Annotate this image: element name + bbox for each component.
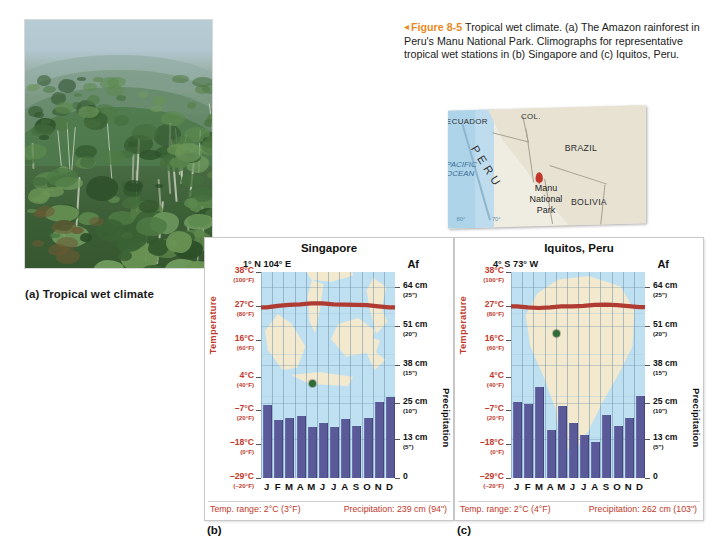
precip-tick bbox=[645, 287, 650, 288]
climograph-footer-singapore: Temp. range: 2°C (3°F) Precipitation: 23… bbox=[208, 501, 450, 516]
panel-letter-c: (c) bbox=[457, 524, 471, 536]
climate-code-iquitos: Af bbox=[657, 258, 669, 270]
month-label-A3: A bbox=[295, 481, 306, 492]
rainforest-photo bbox=[25, 20, 212, 268]
manu-national-park-pin bbox=[536, 172, 543, 182]
temp-tick-label: –7°C(20°F) bbox=[211, 404, 254, 422]
temperature-line bbox=[511, 272, 645, 478]
temp-tick bbox=[506, 478, 511, 479]
month-label-J5: J bbox=[567, 481, 578, 492]
month-label-J6: J bbox=[328, 481, 339, 492]
map-label-colombia: COL. bbox=[521, 112, 541, 121]
month-label-M4: M bbox=[306, 481, 317, 492]
caption-triangle-icon: ◂ bbox=[404, 21, 409, 32]
map-label-brazil: BRAZIL bbox=[565, 143, 597, 153]
month-label-O9: O bbox=[612, 481, 623, 492]
month-label-J0: J bbox=[511, 481, 522, 492]
temperature-line bbox=[261, 272, 395, 478]
climograph-title-iquitos: Iquitos, Peru bbox=[455, 242, 703, 254]
precip-tick-label: 0 bbox=[653, 472, 697, 481]
precip-tick-label: 64 cm(25") bbox=[403, 281, 447, 299]
temp-tick-label: –18°C(0°F) bbox=[461, 438, 504, 456]
rainforest-photo-panel bbox=[25, 20, 212, 268]
temp-range-iquitos: Temp. range: 2°C (4°F) bbox=[460, 504, 551, 514]
month-label-N10: N bbox=[373, 481, 384, 492]
precip-tick bbox=[645, 326, 650, 327]
temp-tick-label: –7°C(20°F) bbox=[461, 404, 504, 422]
map-inset: PACIFICOCEAN ECUADOR COL. BRAZIL BOLIVIA… bbox=[448, 105, 646, 229]
precip-tick bbox=[645, 403, 650, 404]
figure-8-5: (a) Tropical wet climate ◂Figure 8-5 Tro… bbox=[0, 0, 714, 552]
temp-tick-label: –29°C(–20°F) bbox=[461, 472, 504, 490]
month-label-D11: D bbox=[634, 481, 645, 492]
climograph-iquitos: Iquitos, Peru 4° S 73° W Af Temperature … bbox=[455, 238, 703, 520]
month-label-J5: J bbox=[317, 481, 328, 492]
month-label-A3: A bbox=[545, 481, 556, 492]
month-label-O9: O bbox=[362, 481, 373, 492]
map-label-ecuador: ECUADOR bbox=[448, 117, 488, 126]
month-label-A7: A bbox=[589, 481, 600, 492]
plot-area-iquitos bbox=[511, 272, 645, 478]
precipitation-axis-title-iquitos: Precipitation bbox=[691, 388, 702, 447]
climograph-footer-iquitos: Temp. range: 2°C (4°F) Precipitation: 26… bbox=[458, 501, 700, 516]
temp-tick bbox=[256, 478, 261, 479]
map-grid-label-70: 70° bbox=[492, 216, 501, 222]
month-label-S8: S bbox=[350, 481, 361, 492]
temp-range-singapore: Temp. range: 2°C (3°F) bbox=[210, 504, 301, 514]
figure-caption-block: ◂Figure 8-5 Tropical wet climate. (a) Th… bbox=[404, 20, 702, 62]
month-label-M2: M bbox=[533, 481, 544, 492]
month-label-F1: F bbox=[272, 481, 283, 492]
precip-tick bbox=[645, 478, 650, 479]
station-location-dot bbox=[553, 330, 560, 337]
temp-tick-label: 4°C(40°F) bbox=[211, 371, 254, 389]
manu-national-park-label: Manu National Park bbox=[509, 183, 584, 216]
temp-tick-label: –29°C(–20°F) bbox=[211, 472, 254, 490]
precip-total-singapore: Precipitation: 239 cm (94") bbox=[344, 504, 447, 514]
map-inner: PACIFICOCEAN ECUADOR COL. BRAZIL BOLIVIA… bbox=[448, 106, 646, 229]
month-label-N10: N bbox=[623, 481, 634, 492]
climograph-coords-iquitos: 4° S 73° W bbox=[493, 259, 538, 269]
precip-tick bbox=[395, 365, 400, 366]
month-label-M4: M bbox=[556, 481, 567, 492]
temp-tick-label: –18°C(0°F) bbox=[211, 438, 254, 456]
climograph-coords-singapore: 1° N 104° E bbox=[243, 259, 291, 269]
pacific-ocean-label: PACIFICOCEAN bbox=[448, 160, 477, 179]
precip-tick bbox=[645, 439, 650, 440]
precip-tick-label: 51 cm(20") bbox=[403, 320, 447, 338]
month-label-S8: S bbox=[600, 481, 611, 492]
panel-letter-b: (b) bbox=[207, 524, 222, 536]
temperature-axis-title-iquitos: Temperature bbox=[457, 296, 468, 354]
month-labels-iquitos: JFMAMJJASOND bbox=[511, 481, 645, 493]
precip-tick bbox=[395, 287, 400, 288]
month-labels-singapore: JFMAMJJASOND bbox=[261, 481, 395, 493]
month-label-A7: A bbox=[339, 481, 350, 492]
station-location-dot bbox=[309, 380, 316, 387]
precip-tick bbox=[645, 365, 650, 366]
month-label-J0: J bbox=[261, 481, 272, 492]
figure-number: Figure 8-5 bbox=[411, 21, 462, 33]
precip-tick bbox=[395, 326, 400, 327]
photo-caption: (a) Tropical wet climate bbox=[25, 288, 154, 300]
precipitation-axis-title-singapore: Precipitation bbox=[441, 388, 452, 447]
month-label-J6: J bbox=[578, 481, 589, 492]
temp-tick-label: 4°C(40°F) bbox=[461, 371, 504, 389]
month-label-D11: D bbox=[384, 481, 395, 492]
precip-tick bbox=[395, 403, 400, 404]
month-label-M2: M bbox=[283, 481, 294, 492]
precip-tick bbox=[395, 439, 400, 440]
map-grid-label-80: 80° bbox=[457, 216, 466, 222]
climate-code-singapore: Af bbox=[407, 258, 419, 270]
precip-total-iquitos: Precipitation: 262 cm (103") bbox=[589, 504, 697, 514]
month-label-F1: F bbox=[522, 481, 533, 492]
plot-area-singapore bbox=[261, 272, 395, 478]
precip-tick bbox=[395, 478, 400, 479]
precip-tick-label: 51 cm(20") bbox=[653, 320, 697, 338]
precip-tick-label: 64 cm(25") bbox=[653, 281, 697, 299]
climograph-singapore: Singapore 1° N 104° E Af Temperature Pre… bbox=[205, 238, 453, 520]
precip-tick-label: 0 bbox=[403, 472, 447, 481]
temperature-axis-title-singapore: Temperature bbox=[207, 296, 218, 354]
precip-tick-label: 38 cm(15") bbox=[653, 359, 697, 377]
precip-tick-label: 38 cm(15") bbox=[403, 359, 447, 377]
climograph-title-singapore: Singapore bbox=[205, 242, 453, 254]
